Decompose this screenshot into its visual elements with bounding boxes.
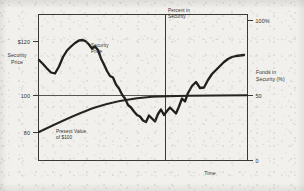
left-tick-label-100: 100: [21, 93, 30, 99]
percent-in-security-annotation-line1: Percent in: [168, 8, 190, 13]
security-price-annotation-line1: Security: [91, 43, 109, 48]
percent-in-security-annotation-line2: Security: [168, 14, 186, 19]
right-axis-ticks: [248, 21, 253, 161]
left-axis-title-line2: Price: [11, 59, 23, 65]
right-axis-title-line2: Security (%): [256, 76, 285, 82]
left-axis-title-line1: Security: [7, 52, 26, 58]
left-tick-label-80: 80: [24, 130, 30, 136]
left-axis-ticks: [33, 42, 38, 133]
figure-canvas: $120 100 80 100% 50 0 Security Price Fun…: [0, 0, 304, 191]
right-axis-title-line1: Funds in: [256, 69, 276, 75]
present-value-curve: [39, 95, 247, 132]
right-tick-label-50: 50: [256, 93, 262, 99]
security-price-annotation-line2: Price: [91, 49, 102, 54]
present-value-annotation-line2: of $100: [56, 135, 73, 140]
left-tick-label-120: $120: [18, 39, 30, 45]
present-value-annotation-line1: Present Value: [56, 129, 86, 134]
right-tick-label-0: 0: [256, 158, 259, 164]
right-tick-label-100pct: 100%: [256, 18, 270, 24]
security-price-curve: [39, 40, 244, 122]
security-price-chart: $120 100 80 100% 50 0 Security Price Fun…: [0, 0, 304, 191]
x-axis-title: Time: [204, 170, 216, 176]
